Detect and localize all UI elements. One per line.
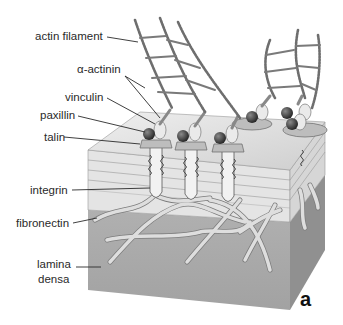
label-talin: talin xyxy=(44,132,65,144)
label-paxillin: paxillin xyxy=(40,110,75,122)
label-integrin: integrin xyxy=(30,185,68,197)
label-actin-filament: actin filament xyxy=(35,31,103,43)
label-lamina: lamina xyxy=(37,259,71,271)
label-alpha-actinin: α-actinin xyxy=(77,64,121,76)
panel-label: a xyxy=(300,288,311,311)
label-densa: densa xyxy=(38,274,69,286)
label-vinculin: vinculin xyxy=(65,92,103,104)
label-fibronectin: fibronectin xyxy=(16,218,69,230)
actin-filaments xyxy=(135,18,320,118)
focal-adhesion-diagram: actin filament α-actinin vinculin paxill… xyxy=(0,0,343,325)
